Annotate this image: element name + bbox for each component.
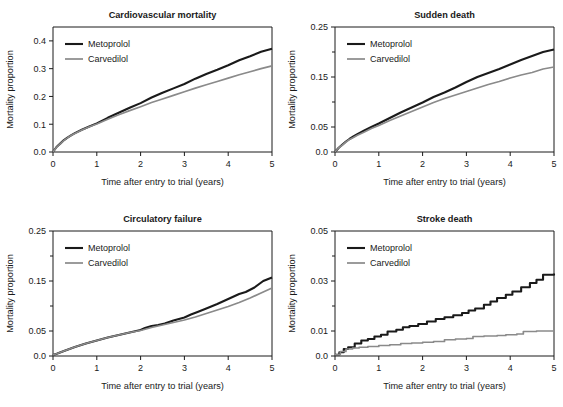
x-tick-label: 5 — [269, 363, 274, 373]
x-tick-label: 3 — [463, 363, 468, 373]
x-tick-label: 4 — [226, 363, 231, 373]
x-tick-label: 0 — [50, 159, 55, 169]
panel-title: Cardiovascular mortality — [109, 10, 218, 20]
panel-stroke-death: Stroke death0123450.00.010.030.05Time af… — [282, 204, 563, 407]
panel-title: Stroke death — [416, 214, 472, 224]
curve-metoprolol — [53, 49, 272, 152]
y-tick-label: 0.0 — [33, 147, 46, 157]
multi-panel-survival-figure: Cardiovascular mortality0123450.00.10.20… — [0, 0, 563, 407]
panel-sudden-death: Sudden death0123450.00.050.150.25Time af… — [282, 0, 563, 204]
x-tick-label: 3 — [182, 363, 187, 373]
panel-title: Sudden death — [414, 10, 475, 20]
panel-cardiovascular-mortality: Cardiovascular mortality0123450.00.10.20… — [0, 0, 282, 204]
plot-frame — [53, 27, 272, 152]
legend-label-metoprolol: Metoprolol — [88, 39, 130, 49]
y-axis-label: Mortality proportion — [287, 50, 297, 129]
x-tick-label: 1 — [94, 363, 99, 373]
x-axis-label: Time after entry to trial (years) — [383, 177, 506, 187]
curve-carvedilol — [53, 288, 272, 355]
x-tick-label: 2 — [420, 159, 425, 169]
y-tick-label: 0.03 — [310, 276, 328, 286]
y-tick-label: 0.0 — [315, 351, 328, 361]
legend-label-metoprolol: Metoprolol — [370, 39, 412, 49]
x-tick-label: 1 — [376, 159, 381, 169]
x-axis-label: Time after entry to trial (years) — [101, 381, 224, 391]
x-tick-label: 2 — [138, 363, 143, 373]
panel-circulatory-failure: Circulatory failure0123450.00.050.150.25… — [0, 204, 282, 407]
x-tick-label: 0 — [50, 363, 55, 373]
y-tick-label: 0.2 — [33, 92, 46, 102]
curve-carvedilol — [335, 331, 554, 355]
legend-label-carvedilol: Carvedilol — [88, 258, 128, 268]
y-tick-label: 0.05 — [310, 122, 328, 132]
x-tick-label: 5 — [551, 159, 556, 169]
legend-label-carvedilol: Carvedilol — [370, 258, 410, 268]
legend-label-carvedilol: Carvedilol — [88, 54, 128, 64]
plot-frame — [335, 27, 554, 152]
x-tick-label: 0 — [332, 363, 337, 373]
y-tick-label: 0.4 — [33, 36, 46, 46]
legend-label-carvedilol: Carvedilol — [370, 54, 410, 64]
y-tick-label: 0.25 — [28, 226, 46, 236]
y-tick-label: 0.3 — [33, 64, 46, 74]
y-tick-label: 0.1 — [33, 120, 46, 130]
y-tick-label: 0.15 — [28, 276, 46, 286]
x-tick-label: 5 — [551, 363, 556, 373]
y-tick-label: 0.01 — [310, 326, 328, 336]
x-tick-label: 2 — [138, 159, 143, 169]
x-tick-label: 4 — [507, 363, 512, 373]
y-axis-label: Mortality proportion — [5, 254, 15, 333]
legend-label-metoprolol: Metoprolol — [370, 243, 412, 253]
panel-title: Circulatory failure — [123, 214, 202, 224]
y-tick-label: 0.05 — [310, 226, 328, 236]
x-tick-label: 4 — [507, 159, 512, 169]
x-tick-label: 1 — [376, 363, 381, 373]
curve-carvedilol — [53, 66, 272, 152]
y-tick-label: 0.25 — [310, 22, 328, 32]
legend-label-metoprolol: Metoprolol — [88, 243, 130, 253]
x-tick-label: 1 — [94, 159, 99, 169]
y-axis-label: Mortality proportion — [5, 50, 15, 129]
curve-carvedilol — [335, 67, 554, 152]
curve-metoprolol — [335, 50, 554, 153]
x-tick-label: 3 — [463, 159, 468, 169]
plot-frame — [335, 231, 554, 356]
x-axis-label: Time after entry to trial (years) — [383, 381, 506, 391]
y-tick-label: 0.0 — [315, 147, 328, 157]
x-tick-label: 4 — [226, 159, 231, 169]
y-axis-label: Mortality proportion — [287, 254, 297, 333]
x-tick-label: 2 — [420, 363, 425, 373]
x-axis-label: Time after entry to trial (years) — [101, 177, 224, 187]
curve-metoprolol — [335, 273, 554, 354]
y-tick-label: 0.0 — [33, 351, 46, 361]
y-tick-label: 0.05 — [28, 326, 46, 336]
x-tick-label: 3 — [182, 159, 187, 169]
x-tick-label: 0 — [332, 159, 337, 169]
y-tick-label: 0.15 — [310, 72, 328, 82]
x-tick-label: 5 — [269, 159, 274, 169]
